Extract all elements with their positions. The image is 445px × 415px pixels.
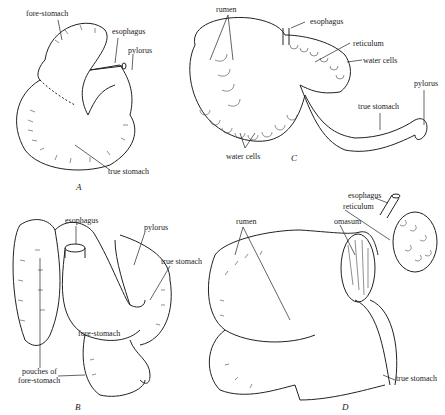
label-a-true-stomach: true stomach [108, 168, 149, 176]
label-a-fore-stomach: fore-stomach [26, 10, 68, 18]
label-d-rumen: rumen [236, 218, 256, 226]
label-c-pylorus: pylorus [414, 80, 438, 88]
stomach-comparison-figure: fore-stomach esophagus pylorus true stom… [0, 0, 445, 415]
label-c-reticulum: reticulum [353, 40, 384, 48]
label-c-true-stomach: true stomach [358, 103, 399, 111]
panel-letter-a: A [76, 182, 82, 192]
label-c-esophagus: esophagus [310, 18, 343, 26]
label-b-pylorus: pylorus [144, 224, 168, 232]
label-b-esophagus: esophagus [65, 217, 98, 225]
panel-letter-c: C [291, 153, 297, 163]
panel-letter-d: D [342, 402, 349, 412]
label-b-fore-stomach: fore-stomach [78, 330, 120, 338]
label-d-esophagus: esophagus [348, 192, 381, 200]
label-a-pylorus: pylorus [128, 47, 152, 55]
label-d-omasum: omasum [334, 218, 361, 226]
label-a-esophagus: esophagus [112, 28, 145, 36]
label-d-true-stomach: true stomach [396, 375, 437, 383]
label-c-water-cells-bottom: water cells [226, 153, 260, 161]
label-d-reticulum: reticulum [343, 203, 374, 211]
panel-c-drawing [190, 15, 427, 151]
panel-a-drawing [17, 20, 135, 170]
label-b-pouches-line2: fore-stomach [18, 377, 60, 385]
label-b-true-stomach: true stomach [161, 258, 202, 266]
label-c-water-cells-top: water cells [363, 57, 397, 65]
label-c-rumen: rumen [216, 6, 236, 14]
label-b-pouches-line1: pouches of [22, 368, 57, 376]
panel-letter-b: B [75, 402, 81, 412]
